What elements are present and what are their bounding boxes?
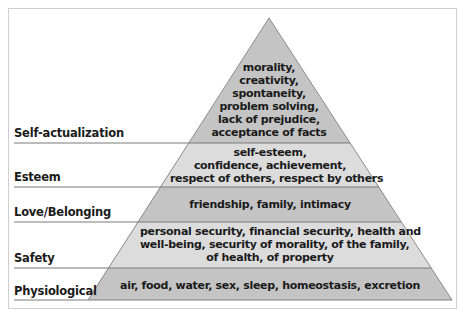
band-line: lack of prejudice, xyxy=(199,113,339,126)
band-line: spontaneity, xyxy=(199,87,339,100)
band-text-safety: personal security, financial security, h… xyxy=(140,225,400,264)
band-line: friendship, family, intimacy xyxy=(170,198,370,211)
band-line: problem solving, xyxy=(199,100,339,113)
level-label-love-belonging: Love/Belonging xyxy=(14,205,111,219)
band-line: creativity, xyxy=(199,74,339,87)
level-label-safety: Safety xyxy=(14,251,55,265)
band-line: well-being, security of morality, of the… xyxy=(140,238,400,251)
band-line: confidence, achievement, xyxy=(170,159,370,172)
level-label-esteem: Esteem xyxy=(14,170,61,184)
band-text-love-belonging: friendship, family, intimacy xyxy=(170,198,370,211)
band-line: morality, xyxy=(199,61,339,74)
band-line: respect of others, respect by others xyxy=(170,172,370,185)
level-label-self-actualization: Self-actualization xyxy=(14,126,124,140)
band-text-esteem: self-esteem, confidence, achievement, re… xyxy=(170,146,370,185)
band-line: personal security, financial security, h… xyxy=(140,225,400,238)
band-text-physiological: air, food, water, sex, sleep, homeostasi… xyxy=(120,279,420,292)
level-label-physiological: Physiological xyxy=(14,284,97,298)
band-line: of health, of property xyxy=(140,251,400,264)
band-line: self-esteem, xyxy=(170,146,370,159)
band-text-self-actualization: morality, creativity, spontaneity, probl… xyxy=(199,61,339,139)
band-line: air, food, water, sex, sleep, homeostasi… xyxy=(120,279,420,292)
band-line: acceptance of facts xyxy=(199,126,339,139)
